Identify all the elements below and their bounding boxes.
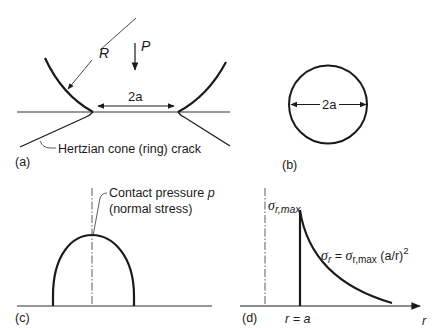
indenter-right-arc <box>178 62 226 112</box>
pressure-label-line2: (normal stress) <box>109 202 192 216</box>
load-label: P <box>141 38 151 54</box>
radius-label: R <box>99 45 109 61</box>
contact-width-label: 2a <box>128 89 143 104</box>
r-axis-label: r <box>422 314 427 328</box>
crack-label-leader <box>40 141 56 148</box>
pressure-label-leader <box>93 193 107 236</box>
indenter-left-arc <box>45 58 93 112</box>
panel-a: R P 2a Hertzian cone (ring) crack (a) <box>15 18 230 169</box>
diameter-label: 2a <box>322 97 337 112</box>
hertzian-contact-figure: R P 2a Hertzian cone (ring) crack (a) 2a… <box>0 0 445 328</box>
pressure-label-line1: Contact pressure p <box>109 186 215 200</box>
panel-c: Contact pressure p (normal stress) (c) <box>15 186 215 325</box>
max-stress-label: σr,max <box>268 198 301 215</box>
crack-label: Hertzian cone (ring) crack <box>58 142 202 156</box>
panel-b: 2a (b) <box>282 66 367 173</box>
panel-a-label: (a) <box>15 155 30 169</box>
panel-d: σr,max σr = σr,max (a/r)2 r = a r (d) <box>240 188 427 328</box>
stress-equation: σr = σr,max (a/r)2 <box>321 245 409 265</box>
r-equals-a-label: r = a <box>285 312 310 326</box>
panel-c-label: (c) <box>15 311 30 325</box>
panel-b-label: (b) <box>282 158 297 172</box>
pressure-distribution-curve <box>53 235 134 306</box>
cone-crack-right <box>178 112 230 146</box>
figure-svg: R P 2a Hertzian cone (ring) crack (a) 2a… <box>0 0 445 328</box>
panel-d-label: (d) <box>242 311 257 325</box>
radius-leader-arrow <box>68 60 92 89</box>
